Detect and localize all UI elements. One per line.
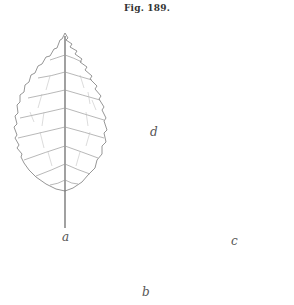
- leaf-label-c: c: [231, 235, 238, 247]
- leaf-label-b: b: [142, 286, 150, 298]
- leaf-label-d: d: [150, 126, 158, 138]
- leaf-label-a: a: [62, 231, 69, 243]
- leaf-illustration: .outline { fill:none; stroke:#8a8a8a; st…: [0, 0, 294, 305]
- leaf-a: [14, 33, 107, 228]
